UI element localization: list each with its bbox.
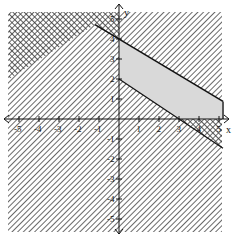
x-axis-label: x	[226, 124, 231, 135]
inequality-graph: -5-4-3-2-112345-5-4-3-2-112345 x y	[0, 0, 233, 235]
x-tick-label: -1	[94, 124, 102, 134]
x-tick-label: -5	[14, 124, 22, 134]
y-tick-label: 1	[110, 94, 115, 104]
x-tick-label: 3	[177, 124, 182, 134]
x-tick-label: 2	[157, 124, 162, 134]
shaded-regions	[8, 9, 223, 232]
x-tick-label: -4	[34, 124, 42, 134]
x-tick-label: -3	[54, 124, 62, 134]
x-tick-label: 4	[197, 124, 202, 134]
x-tick-label: -2	[74, 124, 82, 134]
y-tick-label: -4	[107, 194, 115, 204]
y-tick-label: 4	[110, 34, 115, 44]
y-tick-label: -2	[107, 154, 115, 164]
y-tick-label: -1	[107, 134, 115, 144]
y-axis-label: y	[124, 7, 129, 18]
y-tick-label: -3	[107, 174, 115, 184]
x-tick-label: 5	[217, 124, 222, 134]
y-tick-label: 5	[110, 14, 115, 24]
y-tick-label: 3	[110, 54, 115, 64]
y-tick-label: -5	[107, 214, 115, 224]
x-tick-label: 1	[137, 124, 142, 134]
y-tick-label: 2	[110, 74, 115, 84]
